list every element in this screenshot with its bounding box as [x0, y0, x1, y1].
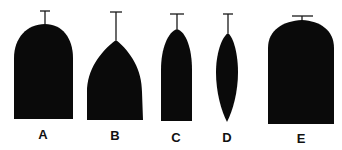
- label-c: C: [171, 130, 181, 145]
- label-a: A: [38, 127, 48, 142]
- figure-item-b: B: [87, 12, 143, 143]
- label-b: B: [110, 128, 119, 143]
- figure-item-d: D: [216, 14, 238, 145]
- figure-item-c: C: [161, 14, 192, 145]
- silhouette-a: [14, 24, 73, 119]
- label-d: D: [222, 130, 231, 145]
- silhouette-b: [87, 40, 143, 120]
- silhouette-e: [268, 20, 334, 124]
- figure-item-e: E: [268, 16, 334, 146]
- silhouette-c: [161, 29, 192, 121]
- label-e: E: [297, 131, 306, 146]
- diagram-canvas: A B C D E: [0, 0, 342, 150]
- figure-item-a: A: [14, 11, 73, 142]
- silhouette-d: [216, 33, 238, 122]
